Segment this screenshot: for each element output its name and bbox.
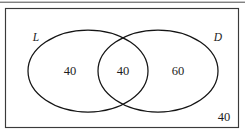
- region-count-left-only: 40: [64, 64, 77, 78]
- venn-diagram-figure: L D 40 40 60 40: [0, 0, 245, 133]
- set-label-left: L: [32, 31, 39, 43]
- region-count-outside: 40: [218, 110, 231, 124]
- set-label-right: D: [213, 31, 223, 43]
- region-count-intersection: 40: [117, 64, 130, 78]
- venn-diagram-canvas: L D 40 40 60 40: [0, 0, 245, 133]
- region-count-right-only: 60: [172, 64, 185, 78]
